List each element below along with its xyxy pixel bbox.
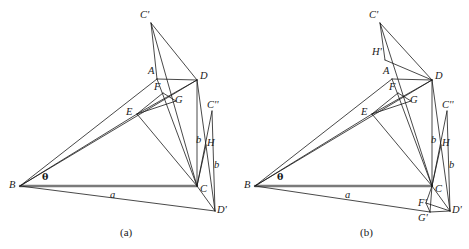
panel-a-label-C: C xyxy=(200,184,207,195)
seg-E-F xyxy=(137,93,163,114)
panel-b-label-E: E xyxy=(361,107,367,118)
panel-b-label-theta: θ xyxy=(277,172,283,182)
panel-b-label-Fprime: F' xyxy=(418,198,427,209)
panel-b-label-C: C xyxy=(435,184,442,195)
panel-b-label-b-upper: b xyxy=(431,135,436,146)
panel-a-label-Cprime: C' xyxy=(140,10,149,21)
panel-a-label-A: A xyxy=(148,66,154,77)
seg-B-Gp xyxy=(255,186,430,212)
panel-a-label-theta: θ xyxy=(42,172,48,182)
panel-a-label-B: B xyxy=(9,180,15,191)
seg-Gp-Dp xyxy=(430,211,450,212)
seg-B-Dp xyxy=(20,186,215,211)
seg-E-F xyxy=(372,93,398,114)
seg-Cp-D xyxy=(151,23,197,80)
panel-b-label-F: F xyxy=(389,82,395,93)
seg-A-D xyxy=(157,79,197,80)
seg-E-C xyxy=(137,114,197,186)
panel-a xyxy=(20,23,215,211)
panel-a-label-Cdprime: C'' xyxy=(207,100,219,111)
panel-a-label-F: F xyxy=(154,82,160,93)
geometry-diagram-canvas xyxy=(0,0,469,249)
panel-b-label-Cdprime: C'' xyxy=(442,100,454,111)
panel-a-label-E: E xyxy=(126,107,132,118)
seg-Hp-D xyxy=(385,60,432,80)
figure-caption-a: (a) xyxy=(120,227,132,238)
seg-C-H xyxy=(197,145,206,186)
panel-a-label-b-lower: b xyxy=(214,160,219,171)
seg-Cp-C xyxy=(151,23,197,186)
figure-caption-b: (b) xyxy=(360,227,373,238)
panel-a-label-D: D xyxy=(200,71,208,82)
panel-b-label-B: B xyxy=(244,180,250,191)
panel-b-label-b-lower: b xyxy=(449,160,454,171)
panel-b-label-Dprime: D' xyxy=(452,205,462,216)
panel-b-label-Hprime: H' xyxy=(372,47,382,58)
panel-a-label-a: a xyxy=(110,190,115,201)
seg-B-E xyxy=(255,114,372,186)
panel-b xyxy=(255,23,450,212)
seg-B-A xyxy=(255,79,392,186)
panel-b-label-Gprime: G' xyxy=(418,213,428,224)
seg-B-E xyxy=(20,114,137,186)
panel-a-label-G: G xyxy=(175,95,183,106)
panel-b-label-A: A xyxy=(383,66,389,77)
seg-D-E xyxy=(137,80,197,114)
panel-b-label-Cprime: C' xyxy=(369,10,378,21)
panel-b-label-G: G xyxy=(410,95,418,106)
seg-Cp-C xyxy=(380,23,432,186)
panel-b-label-a: a xyxy=(345,190,350,201)
seg-D-E xyxy=(372,80,432,114)
panel-a-label-b-upper: b xyxy=(196,135,201,146)
figure-root: C'ADFGEC''bHbθBaCD'C'H'ADFGEC''bHbθBaCF'… xyxy=(0,0,469,249)
panel-b-label-H: H xyxy=(442,138,450,149)
panel-a-label-H: H xyxy=(207,138,215,149)
seg-C-H xyxy=(432,145,441,186)
panel-b-label-D: D xyxy=(435,71,443,82)
seg-Fp-Dp xyxy=(426,203,450,211)
panel-a-label-Dprime: D' xyxy=(217,205,227,216)
seg-E-C xyxy=(372,114,432,186)
seg-B-A xyxy=(20,79,157,186)
